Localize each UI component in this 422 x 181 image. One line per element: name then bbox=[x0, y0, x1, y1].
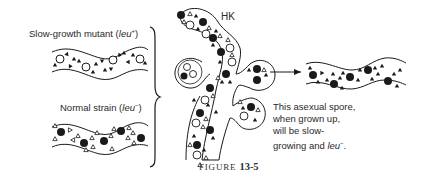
open-circle-nuclei bbox=[56, 55, 144, 71]
heterokaryon-label: HK bbox=[221, 11, 235, 22]
open-triangles bbox=[53, 124, 136, 152]
normal-strain-hypha bbox=[52, 123, 148, 155]
slow-growth-label: Slow-growth mutant (leu+) bbox=[29, 28, 138, 39]
normal-strain-label: Normal strain (leu−) bbox=[60, 102, 142, 113]
heterokaryon bbox=[175, 8, 275, 166]
spore-hypha bbox=[306, 58, 406, 90]
slow-growth-hypha bbox=[52, 47, 148, 79]
spore-description: This asexual spore, when grown up, will … bbox=[273, 101, 355, 152]
figure-caption: FIGURE 13-5 bbox=[199, 161, 259, 172]
brace bbox=[150, 27, 160, 167]
